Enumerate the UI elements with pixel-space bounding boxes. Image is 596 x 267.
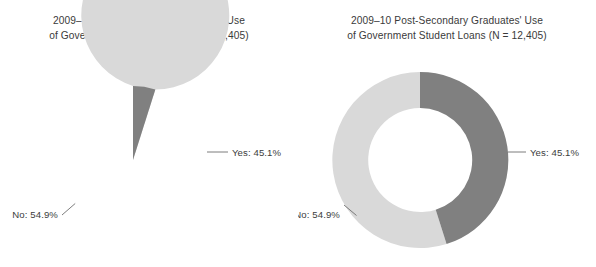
donut-label-no: No: 54.9% — [298, 209, 340, 220]
pie-slice-yes[interactable] — [133, 86, 155, 160]
pie-leader-line-no — [62, 204, 75, 216]
pie-slice-no[interactable] — [81, 0, 229, 160]
pie-label-no: No: 54.9% — [12, 209, 58, 220]
pie-chart-graphic: Yes: 45.1% No: 54.9% — [0, 0, 298, 267]
pie-label-yes: Yes: 45.1% — [232, 147, 282, 158]
pie-chart-panel: 2009–10 Post-Secondary Graduates' Use of… — [0, 0, 298, 267]
figure-canvas: 2009–10 Post-Secondary Graduates' Use of… — [0, 0, 596, 267]
donut-chart-graphic: Yes: 45.1% No: 54.9% — [298, 0, 596, 267]
donut-chart-panel: 2009–10 Post-Secondary Graduates' Use of… — [298, 0, 596, 267]
donut-label-yes: Yes: 45.1% — [530, 147, 580, 158]
